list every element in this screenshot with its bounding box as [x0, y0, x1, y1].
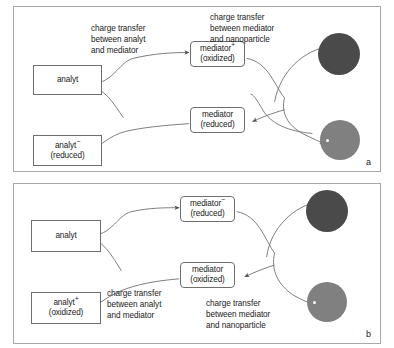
- arrow-particle-to-mediator-bottom: [245, 265, 275, 277]
- nanoparticle-highlight-icon: [326, 139, 329, 142]
- caption-mediator-nanoparticle-b: charge transfer between mediator and nan…: [206, 299, 270, 331]
- node-mediator-top-charge: −: [221, 196, 225, 203]
- node-analyt: analyt: [33, 65, 102, 95]
- caption-analyt-mediator-a: charge transfer between analyt and media…: [91, 24, 145, 56]
- arrow-tail-mediator-top: [247, 58, 285, 98]
- node-analyt-label: analyt: [55, 231, 76, 241]
- node-analyt-product-label: analyt−: [55, 141, 80, 151]
- node-mediator-top-state: (reduced): [190, 209, 224, 219]
- nanoparticle-light-a: [320, 120, 360, 160]
- panel-letter-b: b: [366, 329, 371, 339]
- node-mediator-bottom-label: mediator: [202, 110, 233, 120]
- arrow-to-particle-light: [283, 98, 324, 143]
- node-analyt-product-charge: +: [75, 295, 79, 302]
- node-analyt-product-state: (reduced): [50, 151, 84, 161]
- panel-letter-a: a: [366, 157, 371, 167]
- node-mediator-reduced: mediator (reduced): [190, 107, 245, 133]
- nanoparticle-highlight-icon: [313, 301, 316, 304]
- node-mediator-bottom-state: (oxidized): [190, 275, 225, 285]
- panel-a: analyt analyt− (reduced) mediator+ (oxid…: [13, 6, 381, 172]
- arrow-particle-to-mediator-bottom: [253, 110, 285, 122]
- caption-mediator-nanoparticle-a: charge transfer between mediator and nan…: [210, 13, 274, 45]
- node-analyt-product: analyt+ (oxidized): [31, 292, 101, 324]
- figure-charge-transfer-scheme: analyt analyt− (reduced) mediator+ (oxid…: [0, 0, 394, 348]
- arrow-particle-light-tail: [251, 94, 313, 134]
- node-mediator-top-state: (oxidized): [200, 54, 235, 64]
- node-analyt: analyt: [31, 220, 101, 252]
- node-mediator-bottom-label: mediator: [192, 265, 223, 275]
- node-analyt-product-label: analyt+: [53, 298, 78, 308]
- nanoparticle-light-b: [307, 282, 347, 322]
- node-mediator-top-label: mediator+: [200, 44, 235, 54]
- node-mediator-bottom-state: (reduced): [200, 120, 234, 130]
- arrow-mediator-bottom-to-analyt-product: [92, 124, 189, 151]
- panel-b: analyt analyt+ (oxidized) mediator− (red…: [13, 183, 381, 344]
- node-analyt-label: analyt: [57, 75, 78, 85]
- nanoparticle-dark-a: [318, 33, 360, 75]
- caption-analyt-mediator-b: charge transfer between analyt and media…: [107, 289, 161, 321]
- node-mediator-top-label: mediator−: [190, 199, 225, 209]
- node-analyt-product-state: (oxidized): [49, 308, 84, 318]
- node-analyt-product-charge: −: [76, 138, 80, 145]
- node-mediator-oxidized: mediator (oxidized): [180, 262, 235, 288]
- node-analyt-product: analyt− (reduced): [33, 135, 102, 166]
- nanoparticle-dark-b: [306, 190, 348, 232]
- node-mediator-reduced: mediator− (reduced): [180, 196, 235, 222]
